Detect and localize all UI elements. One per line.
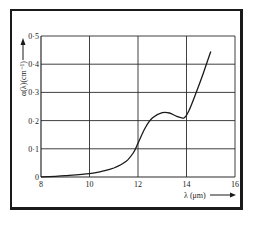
grid-lines bbox=[41, 36, 235, 177]
x-tick-label: 8 bbox=[39, 180, 43, 189]
x-tick-labels: 810121416 bbox=[39, 180, 239, 189]
x-tick-label: 14 bbox=[183, 180, 191, 189]
x-axis-label-group: λ (μm) bbox=[184, 191, 236, 200]
y-tick-label: 0·3 bbox=[28, 88, 39, 97]
y-tick-label: 0·2 bbox=[28, 117, 39, 126]
x-tick-label: 10 bbox=[86, 180, 94, 189]
arrow-up-icon bbox=[21, 38, 26, 45]
y-tick-label: 0·4 bbox=[28, 60, 39, 69]
y-tick-label: 0·5 bbox=[28, 32, 39, 41]
y-tick-label: 0·1 bbox=[28, 145, 39, 154]
absorption-curve bbox=[41, 52, 211, 178]
x-axis-label: λ (μm) bbox=[184, 191, 206, 200]
line-chart: 00·10·20·30·40·5 810121416 α(λ)(cm⁻¹) λ … bbox=[0, 0, 257, 225]
y-axis-label: α(λ)(cm⁻¹) bbox=[19, 61, 28, 96]
y-tick-labels: 00·10·20·30·40·5 bbox=[28, 32, 39, 182]
y-axis-label-group: α(λ)(cm⁻¹) bbox=[19, 38, 28, 96]
x-tick-label: 12 bbox=[134, 180, 142, 189]
x-tick-label: 16 bbox=[231, 180, 239, 189]
arrow-right-icon bbox=[230, 193, 236, 198]
